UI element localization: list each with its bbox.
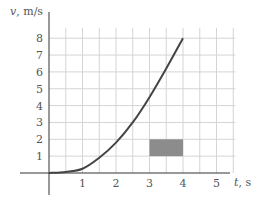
x-tick-label: 4: [180, 177, 187, 190]
y-tick-label: 4: [36, 100, 43, 113]
x-tick-label: 1: [79, 177, 86, 190]
y-axis-label: v, m/s: [10, 5, 43, 18]
y-tick-label: 3: [36, 116, 43, 129]
x-tick-labels: 12345: [79, 177, 220, 190]
x-axis-label: t, s: [234, 176, 251, 189]
axes: [20, 12, 230, 195]
x-tick-label: 5: [213, 177, 220, 190]
y-tick-label: 1: [36, 150, 43, 163]
y-tick-label: 6: [36, 66, 43, 79]
x-axis-unit: , s: [238, 176, 251, 189]
y-tick-labels: 12345678: [36, 32, 43, 163]
x-tick-label: 3: [146, 177, 153, 190]
velocity-time-chart: 12345 12345678 v, m/s t, s: [0, 0, 267, 205]
grid: [49, 28, 235, 173]
y-tick-label: 8: [36, 32, 43, 45]
y-tick-label: 7: [36, 49, 43, 62]
y-axis-unit: , m/s: [16, 5, 43, 18]
shaded-area-rectangle: [150, 139, 184, 156]
y-tick-label: 2: [36, 133, 43, 146]
x-tick-label: 2: [113, 177, 120, 190]
y-tick-label: 5: [36, 83, 43, 96]
